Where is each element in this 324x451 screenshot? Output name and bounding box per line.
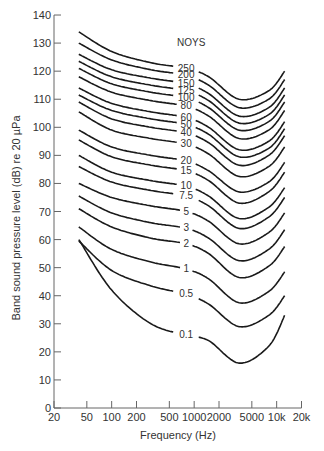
x-tick-label: 1000 [182, 411, 206, 423]
legend-title: NOYS [177, 37, 206, 48]
equal-noisiness-contour-chart: 0102030405060708090100110120130140 20501… [0, 0, 324, 451]
noys-curve [199, 315, 285, 363]
y-axis: 0102030405060708090100110120130140 [33, 9, 61, 414]
y-tick-label: 40 [39, 290, 51, 302]
noys-curve [79, 183, 180, 210]
y-tick-label: 20 [39, 346, 51, 358]
curve-label: 1 [183, 263, 189, 274]
noys-curve [79, 240, 173, 332]
curve-label: 7.5 [179, 190, 193, 201]
y-tick-label: 100 [33, 121, 51, 133]
y-tick-label: 110 [33, 93, 51, 105]
y-tick-label: 50 [39, 262, 51, 274]
y-tick-label: 120 [33, 65, 51, 77]
x-tick-label: 20k [293, 411, 311, 423]
curve-label: 3 [183, 222, 189, 233]
curve-label: 2 [183, 238, 189, 249]
noys-curve [79, 155, 177, 184]
y-tick-label: 30 [39, 318, 51, 330]
curve-label: 0.5 [179, 288, 193, 299]
curve-label: 0.1 [179, 329, 193, 340]
noys-curve [193, 230, 285, 261]
x-tick-label: 100 [102, 411, 120, 423]
noys-curve [79, 95, 177, 123]
y-tick-label: 60 [39, 234, 51, 246]
y-tick-label: 10 [39, 374, 51, 386]
x-tick-label: 200 [127, 411, 145, 423]
x-tick-label: 5000 [240, 411, 264, 423]
x-axis: 205010020050010002000500010k20k [48, 401, 311, 423]
noys-curve [193, 271, 285, 303]
x-tick-label: 500 [160, 411, 178, 423]
x-tick-label: 50 [81, 411, 93, 423]
noys-curve [79, 102, 177, 131]
x-tick-label: 10k [268, 411, 286, 423]
noys-curve [79, 196, 180, 227]
curve-label: 40 [181, 127, 193, 138]
y-axis-title: Band sound pressure level (dB) re 20 µPa [10, 115, 22, 321]
curve-label: 15 [181, 165, 193, 176]
y-tick-label: 80 [39, 177, 51, 189]
y-tick-label: 90 [39, 149, 51, 161]
x-axis-title: Frequency (Hz) [140, 429, 216, 441]
x-tick-label: 2000 [207, 411, 231, 423]
curve-label: 5 [183, 206, 189, 217]
y-tick-label: 70 [39, 206, 51, 218]
noys-curve [79, 68, 173, 95]
x-tick-label: 20 [48, 411, 60, 423]
noys-curve [79, 241, 173, 291]
curve-label: 80 [181, 100, 193, 111]
noys-curve [199, 80, 285, 109]
y-tick-label: 130 [33, 37, 51, 49]
noys-curves: 25020015012510080605040302015107.553210.… [79, 32, 285, 363]
curve-label: 30 [181, 138, 193, 149]
noys-curve [193, 246, 285, 278]
noys-curve [199, 296, 285, 327]
noys-curve [196, 147, 285, 177]
y-tick-label: 140 [33, 9, 51, 21]
